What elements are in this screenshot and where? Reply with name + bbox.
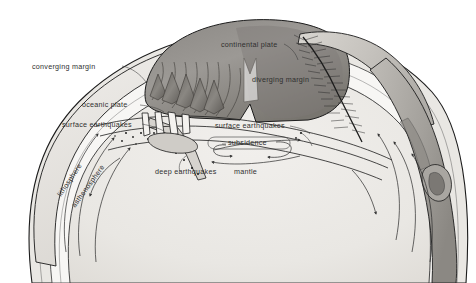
label-oceanic-plate: oceanic plate: [82, 101, 128, 108]
label-converging-margin: converging margin: [32, 63, 95, 70]
diagram-canvas: converging margin oceanic plate surface …: [0, 0, 476, 283]
label-surface-earthquakes-right: surface earthquakes: [215, 122, 285, 129]
label-continental-plate: continental plate: [221, 41, 278, 48]
label-surface-earthquakes-left: surface earthquakes: [62, 121, 132, 128]
label-diverging-margin: diverging margin: [252, 76, 309, 83]
label-mantle: mantle: [234, 168, 257, 175]
label-subsidence: subsidence: [228, 139, 267, 146]
label-deep-earthquakes: deep earthquakes: [155, 168, 217, 175]
